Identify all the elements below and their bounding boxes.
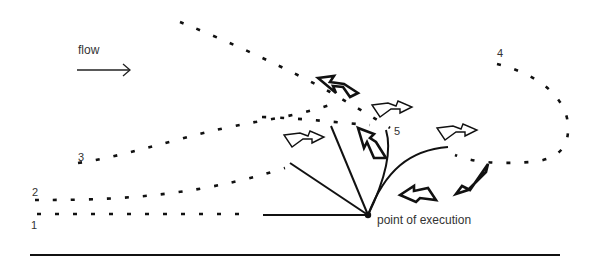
- path-label-3: 3: [78, 151, 84, 163]
- bold-arrow-icon: [318, 76, 358, 97]
- flow-label: flow: [78, 43, 100, 57]
- flow-arrow-icon: [77, 64, 130, 76]
- path-top-dotted: [180, 22, 390, 128]
- path-2-dotted: [35, 168, 285, 200]
- point-of-execution-label: point of execution: [377, 213, 471, 227]
- path-label-1: 1: [31, 219, 37, 231]
- hollow-arrow-icon: [284, 131, 324, 147]
- path-label-5: 5: [394, 125, 400, 137]
- bold-arrow-icon: [358, 128, 386, 158]
- path-3-continued: [262, 117, 370, 125]
- point-of-execution-dot: [365, 212, 371, 218]
- path-label-4: 4: [497, 47, 503, 59]
- bold-arrow-icon: [456, 164, 488, 194]
- path-4-dotted: [455, 64, 568, 163]
- bold-arrow-icon: [400, 186, 436, 202]
- path-label-2: 2: [32, 186, 38, 198]
- hollow-arrow-icon: [437, 124, 477, 140]
- diagram-canvas: flow 1 2 3 4 5 point of execution: [0, 0, 595, 259]
- hollow-arrow-icon: [372, 101, 412, 117]
